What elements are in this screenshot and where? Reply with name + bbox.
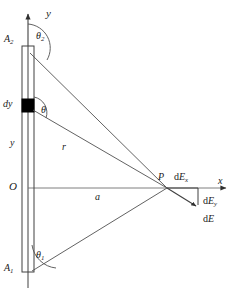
vector-dEx-label: ddEEx [174,172,188,184]
angle-theta2-label: θ2 [36,31,44,43]
angle-theta-label: θ [41,105,46,115]
rod-element-dy [22,99,34,112]
vector-dEy-label: dEy [203,196,217,208]
element-position-y-label: y [10,138,14,148]
dE-E-letter: E [208,213,214,224]
dEx-subscript: x [185,176,188,183]
distance-a-label: a [95,192,100,202]
x-axis-label: x [218,176,222,186]
physics-diagram: y x O A2 A1 θ2 θ θ1 dy y r a P ddEEx dEy… [0,0,239,291]
dEy-subscript: y [214,200,217,207]
rod-bottom-endpoint-subscript: 1 [10,267,13,274]
element-dy-label: dy [3,99,12,109]
vector-dE-resultant [167,188,196,206]
distance-r-label: r [62,142,66,152]
origin-label: O [9,181,17,192]
point-p-label: P [158,172,164,182]
rod-bottom-endpoint-label: A1 [4,263,14,275]
rod-top-endpoint-subscript: 2 [10,38,13,45]
rod-top-endpoint-label: A2 [4,34,14,46]
theta1-subscript: 1 [41,254,44,261]
vector-dE-label: dE [203,214,214,224]
diagram-canvas [0,0,239,291]
theta2-subscript: 2 [41,35,44,42]
y-axis-label: y [46,8,51,19]
angle-theta1-label: θ1 [36,250,44,262]
